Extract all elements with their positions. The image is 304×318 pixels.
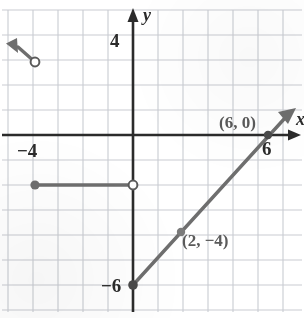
coordinate-plane-svg xyxy=(0,0,304,318)
y-tick-label-4: 4 xyxy=(110,31,120,50)
x-axis-label: x xyxy=(296,110,304,128)
y-tick-label-minus-6: −6 xyxy=(101,276,121,295)
open-circle-right-endpoint xyxy=(129,181,138,190)
x-tick-label-6: 6 xyxy=(262,139,272,158)
annotation-point-2-minus-4: (2, −4) xyxy=(182,232,229,249)
x-tick-label-minus-4: −4 xyxy=(17,141,37,160)
open-circle-endpoint-upper-left xyxy=(31,58,40,67)
y-axis-label: y xyxy=(143,6,151,24)
filled-point-0-minus6 xyxy=(128,280,138,290)
filled-circle-left-endpoint xyxy=(30,180,39,189)
graph-figure: 4 −4 6 −6 y x (6, 0) (2, −4) xyxy=(0,0,304,318)
annotation-point-6-0: (6, 0) xyxy=(219,114,256,131)
